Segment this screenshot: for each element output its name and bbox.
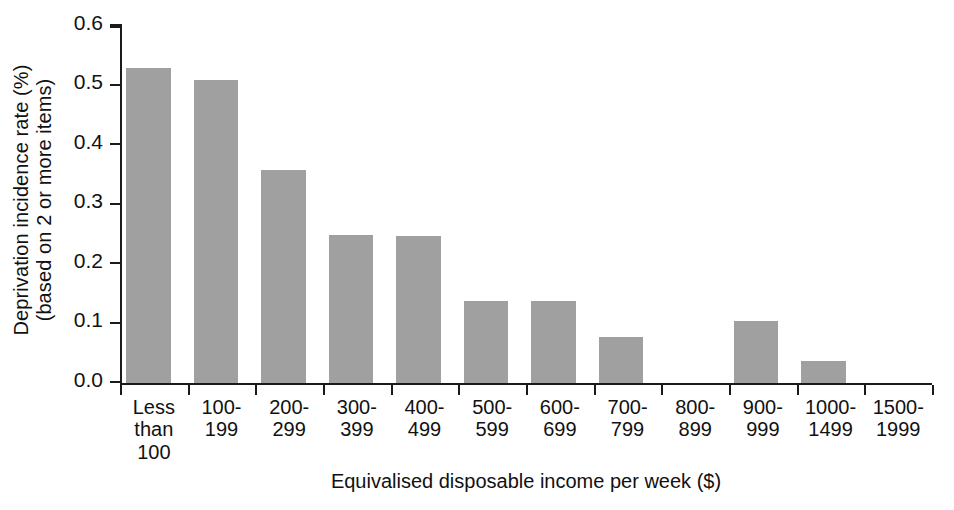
x-axis-tick-label: 200- 299 [255, 396, 323, 463]
bar-slot [527, 26, 595, 383]
bar [126, 68, 171, 383]
bar [531, 301, 576, 383]
x-axis-tick [120, 385, 122, 395]
x-axis-tick-label: 400- 499 [391, 396, 459, 463]
x-axis-tick [932, 385, 934, 395]
bar-slot [595, 26, 663, 383]
y-axis-tick-label: 0.1 [74, 308, 103, 332]
x-axis-tick [864, 385, 866, 395]
bar-slot [730, 26, 798, 383]
bar [396, 236, 441, 383]
y-axis-tick: 0.5 [110, 84, 122, 86]
x-axis-tick-label: 700- 799 [594, 396, 662, 463]
plot-area: 0.00.10.20.30.40.50.6 [120, 26, 932, 385]
x-axis-tick [594, 385, 596, 395]
y-axis-tick-label: 0.4 [74, 130, 103, 154]
y-axis-tick-label: 0.0 [74, 368, 103, 392]
y-axis-tick: 0.1 [110, 322, 122, 324]
x-axis-tick-label: 1000- 1499 [797, 396, 865, 463]
bar [329, 235, 374, 383]
x-axis-tick-label: 900- 999 [729, 396, 797, 463]
x-axis-tick [188, 385, 190, 395]
bar [734, 321, 779, 383]
x-axis-tick-label: 100- 199 [188, 396, 256, 463]
x-axis-tick-labels: Less than 100100- 199200- 299300- 399400… [120, 396, 932, 463]
bar-series [122, 26, 932, 383]
y-axis-tick-label: 0.3 [74, 189, 103, 213]
bar-slot [122, 26, 190, 383]
y-axis-title: Deprivation incidence rate (%) (based on… [0, 0, 66, 400]
bar-slot [460, 26, 528, 383]
x-axis-tick [526, 385, 528, 395]
y-axis-title-line1: Deprivation incidence rate (%) [10, 65, 33, 336]
x-axis-tick [323, 385, 325, 395]
bar-slot [190, 26, 258, 383]
x-axis-tick [458, 385, 460, 395]
bar-slot [797, 26, 865, 383]
bar-slot [325, 26, 393, 383]
x-axis-tick-label: 1500- 1999 [864, 396, 932, 463]
y-axis-tick-label: 0.5 [74, 70, 103, 94]
chart-figure: Deprivation incidence rate (%) (based on… [0, 0, 954, 510]
x-axis-tick [255, 385, 257, 395]
y-axis-tick: 0.3 [110, 203, 122, 205]
x-axis-tick [661, 385, 663, 395]
bar [464, 301, 509, 383]
y-axis-tick: 0.6 [110, 24, 122, 26]
y-axis-title-line2: (based on 2 or more items) [33, 65, 56, 336]
bar [801, 361, 846, 383]
bar-slot [662, 26, 730, 383]
y-axis-tick: 0.0 [110, 381, 122, 383]
x-axis-tick-label: 600- 699 [526, 396, 594, 463]
x-axis-tick-label: 500- 599 [458, 396, 526, 463]
x-axis-tick [729, 385, 731, 395]
bar [599, 337, 644, 383]
bar-slot [257, 26, 325, 383]
bar [194, 80, 239, 383]
y-axis-tick-label: 0.2 [74, 249, 103, 273]
x-axis-tick-label: 800- 899 [661, 396, 729, 463]
bar [261, 170, 306, 383]
x-axis-tick [797, 385, 799, 395]
y-axis-tick: 0.2 [110, 262, 122, 264]
y-axis-top-tick [110, 26, 122, 28]
x-axis-tick-label: 300- 399 [323, 396, 391, 463]
y-axis-tick: 0.4 [110, 143, 122, 145]
y-axis-tick-label: 0.6 [74, 11, 103, 35]
bar-slot [865, 26, 933, 383]
x-axis-ticks [120, 385, 932, 395]
bar-slot [392, 26, 460, 383]
x-axis-tick-label: Less than 100 [120, 396, 188, 463]
x-axis-tick [391, 385, 393, 395]
x-axis-title: Equivalised disposable income per week (… [120, 470, 932, 493]
